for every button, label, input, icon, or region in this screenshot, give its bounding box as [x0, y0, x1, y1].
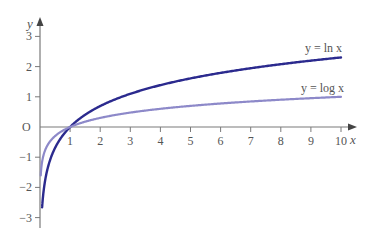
x-tick-label: 8 — [278, 134, 284, 148]
curves — [41, 57, 341, 207]
y-tick-label: −2 — [19, 180, 32, 194]
y-tick-label: 3 — [26, 29, 32, 43]
y-tick-label: −3 — [19, 211, 32, 225]
log-curve-label: y = log x — [301, 81, 344, 95]
x-tick-label: 4 — [157, 134, 163, 148]
y-tick-label: −1 — [19, 150, 32, 164]
x-tick-label: 10 — [335, 134, 347, 148]
x-tick-label: 6 — [218, 134, 224, 148]
y-tick-label: 2 — [26, 60, 32, 74]
x-tick-label: 1 — [67, 134, 73, 148]
x-axis-arrow-icon — [348, 124, 357, 131]
y-axis-arrow-icon — [37, 17, 44, 26]
log-functions-chart: 12345678910−3−2−1123 y x O y = ln x y = … — [0, 0, 373, 240]
y-axis-label: y — [25, 16, 33, 31]
ln-curve-label: y = ln x — [305, 41, 342, 55]
x-tick-label: 3 — [127, 134, 133, 148]
x-tick-label: 2 — [97, 134, 103, 148]
origin-label: O — [22, 120, 31, 134]
x-tick-label: 7 — [248, 134, 254, 148]
x-axis-label: x — [349, 132, 356, 147]
x-tick-label: 5 — [188, 134, 194, 148]
y-tick-label: 1 — [26, 90, 32, 104]
x-tick-label: 9 — [308, 134, 314, 148]
ln-curve — [42, 57, 341, 207]
